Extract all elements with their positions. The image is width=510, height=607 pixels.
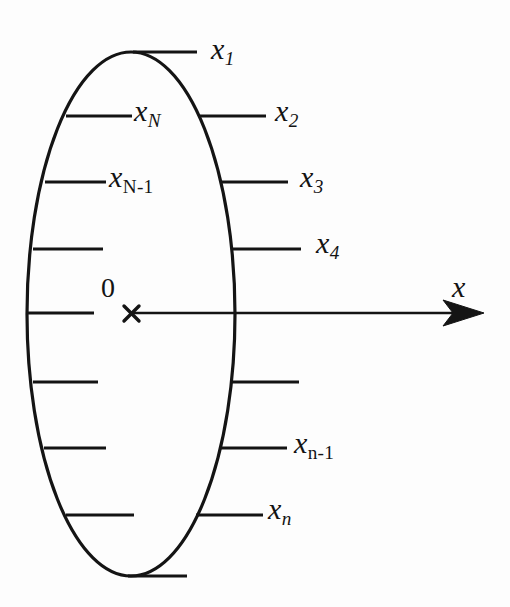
- label-x-n-minus-1: xn-1: [294, 428, 334, 462]
- x-axis-arrow: [131, 300, 484, 326]
- diagram-vector-layer: [0, 0, 510, 607]
- label-x3-base: x: [300, 160, 313, 193]
- label-axis-x: x: [452, 272, 465, 302]
- label-x2-base: x: [275, 94, 288, 127]
- label-x-N-minus-1: xN-1: [109, 162, 153, 196]
- label-x1: x1: [211, 34, 235, 68]
- label-x-n: xn: [268, 494, 292, 528]
- label-x1-sub: 1: [224, 48, 234, 69]
- label-x2-sub: 2: [288, 110, 298, 131]
- label-x-n-sub: n: [281, 508, 291, 529]
- left-tick-group: [28, 116, 187, 576]
- label-x3: x3: [300, 162, 324, 196]
- label-x1-base: x: [211, 32, 224, 65]
- label-x2: x2: [275, 96, 299, 130]
- diagram-canvas: x1 x2 x3 x4 xn-1 xn xN xN-1 x 0: [0, 0, 510, 607]
- label-x-N-sub: N: [147, 110, 161, 131]
- label-x4: x4: [316, 228, 340, 262]
- label-x4-sub: 4: [329, 242, 339, 263]
- label-x-n-minus-1-sub: n-1: [307, 442, 334, 463]
- label-x4-base: x: [316, 226, 329, 259]
- label-x-N-minus-1-sub: N-1: [122, 176, 153, 197]
- label-x3-sub: 3: [313, 176, 323, 197]
- label-x-N-base: x: [134, 94, 147, 127]
- label-x-N: xN: [134, 96, 161, 130]
- label-x-n-minus-1-base: x: [294, 426, 307, 459]
- label-x-n-base: x: [268, 492, 281, 525]
- label-axis-x-base: x: [452, 270, 465, 303]
- label-x-N-minus-1-base: x: [109, 160, 122, 193]
- label-origin-zero: 0: [101, 274, 115, 302]
